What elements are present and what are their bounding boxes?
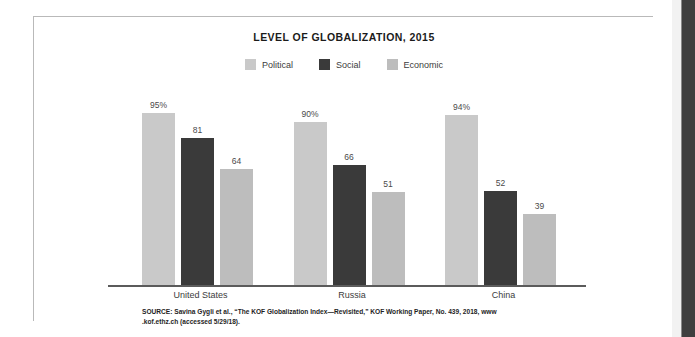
- figure-container: LEVEL OF GLOBALIZATION, 2015 Political S…: [33, 16, 653, 321]
- bar-rect-social[interactable]: [484, 191, 517, 285]
- bar-value-label: 39: [535, 201, 544, 211]
- page-edge-light-strip: [672, 0, 681, 337]
- bar-item-china-economic[interactable]: 39: [523, 89, 556, 285]
- chart-legend: Political Social Economic: [34, 59, 654, 70]
- bar-rect-political[interactable]: [294, 122, 327, 285]
- x-axis-line: [108, 285, 586, 287]
- bar-item-russia-political[interactable]: 90%: [294, 89, 327, 285]
- chart-title: LEVEL OF GLOBALIZATION, 2015: [34, 31, 654, 43]
- legend-label-social: Social: [336, 60, 361, 70]
- bar-groups: 95% 81 64 90% 66: [142, 89, 562, 285]
- legend-swatch-political-icon: [245, 59, 256, 70]
- source-note-line-1: SOURCE: Savina Gygli et al., “The KOF Gl…: [142, 307, 612, 317]
- bar-group-united-states: 95% 81 64: [142, 89, 259, 285]
- bar-rect-political[interactable]: [445, 115, 478, 285]
- legend-label-economic: Economic: [404, 60, 444, 70]
- legend-swatch-economic-icon: [387, 59, 398, 70]
- bar-rect-political[interactable]: [142, 113, 175, 285]
- bar-item-russia-social[interactable]: 66: [333, 89, 366, 285]
- bar-value-label: 66: [344, 152, 353, 162]
- source-note-line-2: .kof.ethz.ch (accessed 5/29/18).: [142, 317, 612, 327]
- legend-swatch-social-icon: [319, 59, 330, 70]
- bar-rect-economic[interactable]: [220, 169, 253, 285]
- bar-rect-economic[interactable]: [372, 192, 405, 285]
- legend-label-political: Political: [262, 60, 293, 70]
- legend-item-social[interactable]: Social: [319, 59, 361, 70]
- source-note: SOURCE: Savina Gygli et al., “The KOF Gl…: [142, 307, 612, 327]
- category-label-united-states: United States: [142, 290, 259, 300]
- bar-value-label: 95%: [150, 100, 167, 110]
- bar-value-label: 51: [383, 179, 392, 189]
- bar-value-label: 94%: [453, 102, 470, 112]
- legend-item-economic[interactable]: Economic: [387, 59, 444, 70]
- bar-rect-economic[interactable]: [523, 214, 556, 285]
- category-label-china: China: [445, 290, 562, 300]
- bar-item-us-social[interactable]: 81: [181, 89, 214, 285]
- bar-value-label: 64: [232, 156, 241, 166]
- category-label-russia: Russia: [294, 290, 411, 300]
- bar-group-russia: 90% 66 51: [294, 89, 411, 285]
- bar-value-label: 81: [193, 125, 202, 135]
- bar-group-china: 94% 52 39: [445, 89, 562, 285]
- bar-item-russia-economic[interactable]: 51: [372, 89, 405, 285]
- bar-value-label: 90%: [301, 109, 318, 119]
- bar-item-china-social[interactable]: 52: [484, 89, 517, 285]
- bar-value-label: 52: [496, 178, 505, 188]
- bar-item-us-economic[interactable]: 64: [220, 89, 253, 285]
- bar-rect-social[interactable]: [333, 165, 366, 285]
- legend-item-political[interactable]: Political: [245, 59, 293, 70]
- page-edge-dark-strip: [682, 0, 695, 337]
- bar-item-china-political[interactable]: 94%: [445, 89, 478, 285]
- bar-item-us-political[interactable]: 95%: [142, 89, 175, 285]
- x-axis-category-labels: United States Russia China: [142, 290, 562, 300]
- bar-rect-social[interactable]: [181, 138, 214, 285]
- plot-area: 95% 81 64 90% 66: [142, 89, 562, 285]
